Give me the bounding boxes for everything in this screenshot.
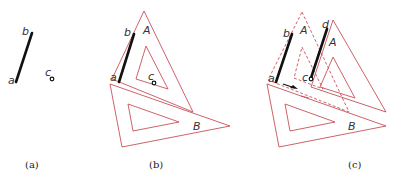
- point-c: [309, 77, 313, 81]
- line-ab: [119, 34, 134, 82]
- drawing-canvas: b a c (a) b a A c B (b): [0, 0, 397, 181]
- label-b: b: [283, 27, 290, 40]
- caption-b: (b): [149, 159, 163, 170]
- triangle-A-moved: [311, 20, 386, 112]
- triangle-B: [110, 84, 230, 147]
- label-a: a: [110, 71, 117, 84]
- panel-a: b a c (a): [8, 25, 54, 170]
- label-A: A: [142, 24, 151, 37]
- line-ab: [276, 34, 292, 82]
- triangle-B: [267, 84, 386, 147]
- arrow-icon: [290, 85, 298, 89]
- label-A-original: A: [299, 24, 308, 37]
- label-a: a: [268, 72, 275, 85]
- caption-c: (c): [348, 159, 362, 170]
- point-c: [152, 81, 156, 85]
- label-B: B: [348, 120, 356, 133]
- label-b: b: [124, 26, 131, 39]
- label-A-moved: A: [328, 36, 337, 49]
- caption-a: (a): [25, 159, 39, 170]
- label-a: a: [8, 74, 15, 87]
- label-b: b: [22, 25, 29, 38]
- label-d: d: [322, 18, 330, 31]
- triangle-B-inner: [128, 104, 179, 131]
- label-c: c: [45, 66, 51, 79]
- triangle-B-inner: [285, 104, 335, 131]
- panel-b: b a A c B (b): [110, 11, 230, 170]
- point-c: [50, 77, 54, 81]
- panel-c: b a A d A c B (c): [267, 12, 386, 170]
- line-ab: [16, 33, 32, 82]
- label-c: c: [302, 71, 308, 84]
- label-B: B: [193, 120, 201, 133]
